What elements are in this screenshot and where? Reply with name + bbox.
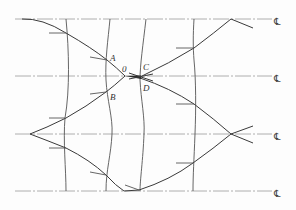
curve-bottom-to-right-vertex	[139, 134, 231, 190]
centerline-symbol-1: ℄	[273, 16, 281, 27]
vertical-curve-1	[64, 19, 68, 191]
centerline-symbols: ℄ ℄ ℄ ℄	[273, 16, 281, 199]
curve-left-vertex-to-bottom	[30, 134, 139, 191]
curve-O-to-left-vertex	[30, 76, 125, 134]
label-D: D	[142, 83, 150, 93]
centerlines	[15, 19, 272, 191]
label-B: B	[110, 92, 116, 102]
curve-D-to-right-vertex	[140, 78, 231, 134]
centerline-symbol-3: ℄	[273, 131, 281, 142]
diagram-svg: ℄ ℄ ℄ ℄	[0, 0, 296, 210]
tick-mark	[125, 185, 139, 190]
tick-marks	[49, 33, 194, 190]
vertical-curves	[64, 19, 195, 191]
vertical-curve-2	[106, 19, 112, 191]
label-A: A	[109, 53, 116, 63]
centerline-symbol-2: ℄	[273, 73, 281, 84]
curve-C-to-top-right	[140, 19, 253, 77]
right-vertex-branch-lower	[231, 134, 253, 143]
diagram-canvas: ℄ ℄ ℄ ℄	[0, 0, 296, 210]
centerline-symbol-4: ℄	[273, 188, 281, 199]
diagonal-curves	[22, 19, 253, 191]
label-C: C	[143, 62, 150, 72]
right-vertex-branch-upper	[231, 126, 253, 134]
vertical-curve-3	[140, 19, 146, 191]
label-O: 0	[122, 64, 127, 74]
